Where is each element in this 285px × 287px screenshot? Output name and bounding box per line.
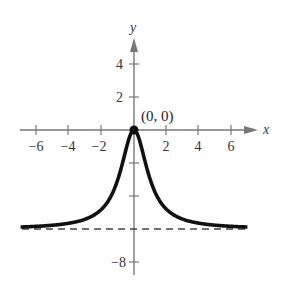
svg-text:4: 4 (116, 57, 123, 72)
y-axis-label: y (128, 20, 137, 35)
svg-text:2: 2 (163, 139, 170, 154)
x-axis-arrow-icon (244, 126, 258, 134)
svg-text:2: 2 (116, 90, 123, 105)
origin-point-label: (0, 0) (141, 108, 174, 125)
svg-text:6: 6 (228, 139, 235, 154)
svg-text:−6: −6 (29, 139, 44, 154)
origin-point (130, 126, 139, 135)
y-axis-arrow-icon (130, 38, 138, 52)
x-axis-label: x (262, 122, 270, 137)
svg-text:−2: −2 (92, 139, 107, 154)
svg-text:−8: −8 (111, 255, 126, 270)
x-tick-labels: −6 −4 −2 2 4 6 (29, 139, 235, 154)
svg-text:−4: −4 (61, 139, 76, 154)
svg-text:4: 4 (195, 139, 202, 154)
function-graph: x y −6 −4 −2 2 4 6 4 2 −8 (0, 0) (0, 0, 285, 287)
